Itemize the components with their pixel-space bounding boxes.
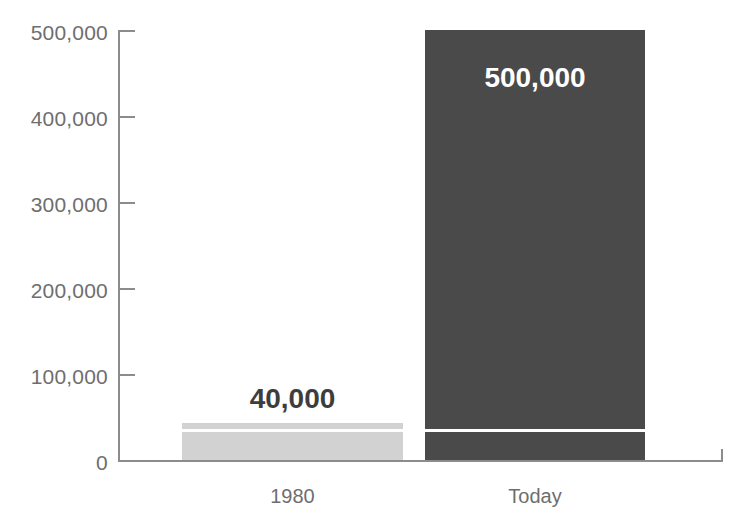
bar-1980[interactable] [182,423,403,461]
x-axis-label-1980: 1980 [182,486,403,506]
x-axis-line [118,460,723,462]
y-axis-line [118,30,120,462]
bar-today[interactable] [425,30,645,461]
reference-line-40000-bar-1980 [182,429,403,432]
y-axis-tick-label-100000: 100,000 [31,366,108,387]
y-axis-tick-100000 [118,374,135,376]
y-axis-tick-200000 [118,288,135,290]
y-axis-tick-label-0: 0 [96,452,108,473]
x-axis-label-today: Today [425,486,645,506]
y-axis-tick-label-200000: 200,000 [31,280,108,301]
y-axis-tick-label-500000: 500,000 [31,22,108,43]
y-axis-tick-300000 [118,202,135,204]
value-label-1980: 40,000 [182,385,403,413]
y-axis-tick-label-400000: 400,000 [31,108,108,129]
y-axis-tick-400000 [118,116,135,118]
x-axis-end-tick [721,449,723,461]
y-axis-tick-500000 [118,30,135,32]
bar-chart: 500,000 400,000 300,000 200,000 100,000 … [0,0,754,530]
reference-line-40000-bar-today [425,429,645,432]
y-axis-tick-label-300000: 300,000 [31,194,108,215]
value-label-today: 500,000 [425,64,645,92]
